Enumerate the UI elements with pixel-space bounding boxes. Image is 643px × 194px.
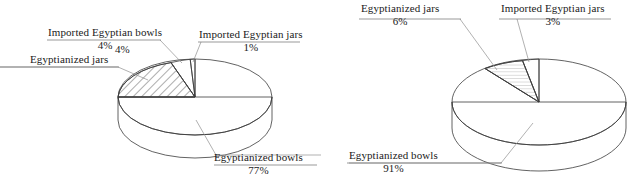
label-text: Imported Egyptian jars <box>199 28 303 40</box>
pie-right-3d-body <box>452 102 626 171</box>
pie-right-leader-lines <box>349 19 533 163</box>
pie-chart-left: Imported Egyptian bowls 4% Egyptianized … <box>0 0 321 194</box>
label-egyptianized-bowls-right: Egyptianized bowls 91% <box>349 150 438 174</box>
pie-chart-right: Egyptianized jars 6% Imported Egyptian j… <box>321 0 643 194</box>
label-imported-egyptian-bowls-left: Imported Egyptian bowls 4% <box>48 27 162 51</box>
label-percent: 77% <box>214 165 303 177</box>
label-text: Egyptianized bowls <box>214 151 303 163</box>
label-imported-egyptian-jars-left: Imported Egyptian jars 1% <box>199 29 303 53</box>
label-percent: 6% <box>361 16 439 28</box>
figure-two-pie-charts: Imported Egyptian bowls 4% Egyptianized … <box>0 0 643 194</box>
label-egyptianized-jars-left: Egyptianized jars <box>30 54 108 66</box>
label-egyptianized-jars-right: Egyptianized jars 6% <box>361 3 439 27</box>
label-percent: 91% <box>349 163 438 175</box>
pie-left-slice-egyptianized-jars <box>118 63 195 97</box>
label-percent: 4% <box>48 40 162 52</box>
label-percent: 3% <box>501 16 605 28</box>
pie-right-slice-egyptianized-jars <box>485 61 539 102</box>
label-text: Egyptianized jars <box>30 53 108 65</box>
pie-left-3d-body <box>118 97 272 158</box>
label-percent-imported-bowls-left-standalone: 4% <box>115 44 130 56</box>
label-text: Egyptianized jars <box>361 2 439 14</box>
label-text: Egyptianized bowls <box>349 149 438 161</box>
label-imported-egyptian-jars-right: Imported Egyptian jars 3% <box>501 3 605 27</box>
label-text: Imported Egyptian bowls <box>48 26 162 38</box>
label-text: Imported Egyptian jars <box>501 2 605 14</box>
label-percent: 4% <box>115 43 130 55</box>
pie-right-label-underlines <box>347 19 611 163</box>
label-percent: 1% <box>199 42 303 54</box>
label-egyptianized-bowls-left: Egyptianized bowls 77% <box>214 152 303 176</box>
